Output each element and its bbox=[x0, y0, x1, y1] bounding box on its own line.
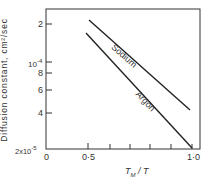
x-tick-0: 0 bbox=[44, 153, 49, 162]
y-tick-8: 8 bbox=[38, 69, 43, 78]
x-ticks bbox=[88, 143, 192, 149]
y-tick-2e-5: 2x10-5 bbox=[15, 145, 37, 155]
x-axis-label: TM / T bbox=[125, 166, 149, 178]
y-tick-1e-4-base: 10 bbox=[28, 60, 37, 69]
x-tick-0-5: 0·5 bbox=[82, 153, 95, 162]
chart-plot-area bbox=[0, 0, 207, 184]
y-tick-6: 6 bbox=[38, 86, 43, 95]
x-tick-1-0: 1·0 bbox=[187, 153, 200, 162]
x-axis-label-rest: / T bbox=[136, 166, 149, 176]
y-tick-2e-5-exp: -5 bbox=[31, 145, 36, 151]
y-tick-1e-4-exp: -4 bbox=[37, 58, 42, 64]
y-tick-4: 4 bbox=[38, 109, 43, 118]
y-tick-2: 2 bbox=[38, 20, 43, 29]
y-tick-2e-5-base: 2x10 bbox=[15, 147, 31, 156]
plot-frame bbox=[46, 9, 200, 149]
y-axis-label: Diffusion constant, cm²/sec bbox=[0, 18, 9, 141]
y-ticks bbox=[46, 24, 52, 113]
